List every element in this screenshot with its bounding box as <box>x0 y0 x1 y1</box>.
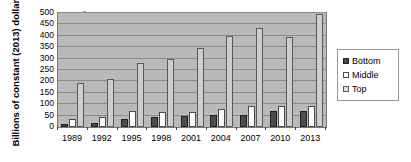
y-axis-tick-label: 350 <box>28 42 54 51</box>
bar-group <box>147 13 177 127</box>
x-axis-tick-label: 2010 <box>265 132 295 146</box>
bar-top-1989 <box>77 83 84 127</box>
x-axis-tick-mark <box>57 127 58 130</box>
bar-top-2001 <box>197 48 204 127</box>
bar-bottom-1995 <box>121 119 128 127</box>
x-axis-tick-label: 2013 <box>295 132 325 146</box>
y-axis-tick-label: 300 <box>28 53 54 62</box>
bar-middle-2013 <box>308 106 315 127</box>
bar-middle-2004 <box>218 109 225 127</box>
bar-group <box>266 13 296 127</box>
bar-group <box>207 13 237 127</box>
bar-bottom-2007 <box>240 115 247 127</box>
y-axis-tick-label: 500 <box>28 8 54 17</box>
y-axis-tick-label: 100 <box>28 99 54 108</box>
x-axis-tick-label: 1992 <box>87 132 117 146</box>
bar-top-1992 <box>107 79 114 127</box>
bar-chart-figure: Billions of constant (2013) dollars 0501… <box>0 0 411 162</box>
legend-label: Bottom <box>352 56 381 66</box>
bar-top-2010 <box>286 37 293 127</box>
bar-group <box>177 13 207 127</box>
legend-swatch-middle-icon <box>343 72 349 78</box>
x-axis-tick-labels: 198919921995199820012004200720102013 <box>57 132 325 146</box>
bar-middle-1995 <box>129 111 136 127</box>
x-axis-tick-mark <box>117 127 118 130</box>
bar-middle-2010 <box>278 106 285 127</box>
x-axis-tick-mark <box>265 127 266 130</box>
x-axis-tick-mark <box>325 127 326 130</box>
plot-area <box>57 12 327 128</box>
bar-bottom-2001 <box>181 116 188 127</box>
y-axis-tick-label: 250 <box>28 65 54 74</box>
bar-bottom-2004 <box>210 115 217 127</box>
bar-middle-1998 <box>159 112 166 127</box>
bar-middle-2007 <box>248 106 255 127</box>
bar-group <box>58 13 88 127</box>
x-axis-tick-mark <box>146 127 147 130</box>
legend-label: Middle <box>352 70 379 80</box>
y-axis-tick-label: 450 <box>28 19 54 28</box>
legend-item-top[interactable]: Top <box>343 82 394 96</box>
y-axis-tick-label: 400 <box>28 30 54 39</box>
bar-top-2013 <box>316 14 323 127</box>
legend-item-bottom[interactable]: Bottom <box>343 54 394 68</box>
bar-groups <box>58 13 326 127</box>
x-axis-tick-mark <box>236 127 237 130</box>
y-axis-title: Billions of constant (2013) dollars <box>0 0 30 140</box>
x-axis-tick-mark <box>206 127 207 130</box>
bar-group <box>88 13 118 127</box>
bar-bottom-2010 <box>270 111 277 127</box>
x-axis-tick-mark <box>295 127 296 130</box>
chart-legend: BottomMiddleTop <box>337 49 399 101</box>
x-axis-tick-label: 2001 <box>176 132 206 146</box>
y-axis-tick-label: 50 <box>28 110 54 119</box>
legend-swatch-top-icon <box>343 86 349 92</box>
x-axis-tick-label: 1989 <box>57 132 87 146</box>
x-axis-tick-label: 2007 <box>236 132 266 146</box>
legend-swatch-bottom-icon <box>343 58 349 64</box>
y-axis-title-text: Billions of constant (2013) dollars <box>10 0 21 146</box>
y-axis-tick-label: 200 <box>28 76 54 85</box>
bar-group <box>296 13 326 127</box>
bar-top-1998 <box>167 59 174 127</box>
bar-middle-2001 <box>189 112 196 128</box>
bar-top-1995 <box>137 63 144 127</box>
bar-top-2007 <box>256 28 263 127</box>
y-axis-tick-label: 0 <box>28 122 54 131</box>
bar-bottom-2013 <box>300 111 307 127</box>
y-axis-tick-label: 150 <box>28 87 54 96</box>
y-axis-tick-labels: 050100150200250300350400450500 <box>28 7 54 131</box>
legend-item-middle[interactable]: Middle <box>343 68 394 82</box>
legend-label: Top <box>352 84 367 94</box>
bar-bottom-1998 <box>151 117 158 127</box>
bar-group <box>118 13 148 127</box>
x-axis-tick-label: 1995 <box>117 132 147 146</box>
bar-group <box>237 13 267 127</box>
bar-top-2004 <box>226 36 233 127</box>
x-axis-tick-marks <box>57 127 325 131</box>
x-axis-tick-mark <box>87 127 88 130</box>
x-axis-tick-mark <box>176 127 177 130</box>
bar-middle-1992 <box>99 117 106 127</box>
bar-middle-1989 <box>69 119 76 127</box>
x-axis-tick-label: 1998 <box>146 132 176 146</box>
x-axis-tick-label: 2004 <box>206 132 236 146</box>
